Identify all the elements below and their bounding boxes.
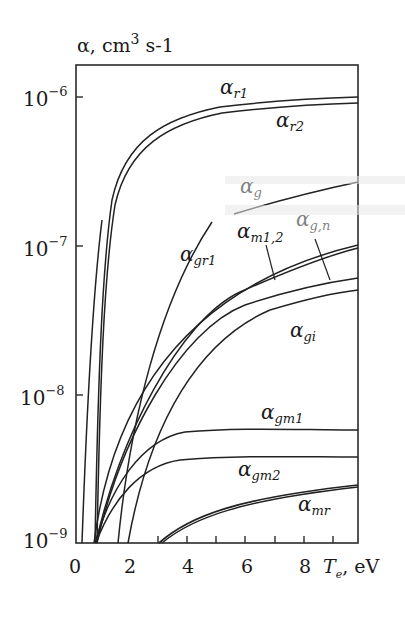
y-tick-1e-7: 10−7	[23, 234, 68, 261]
curve-r2	[97, 103, 358, 543]
y-tick-1e-6: 10−6	[23, 84, 68, 111]
label-m12: αm1,2	[237, 219, 284, 245]
x-axis-title: Te, eV	[323, 555, 380, 581]
curve-m12-upper	[94, 245, 358, 543]
curve-m12-lower	[96, 248, 358, 543]
x-tick-6: 6	[241, 555, 253, 577]
curve-gm2	[96, 457, 358, 543]
y-tick-1e-9: 10−9	[23, 526, 68, 553]
curve-gr1	[118, 222, 212, 543]
label-r2: αr2	[276, 108, 304, 134]
label-gm2: αgm2	[238, 457, 280, 483]
x-tick-4: 4	[182, 555, 194, 577]
label-mr: αmr	[298, 492, 331, 518]
y-tick-1e-8: 10−8	[20, 383, 65, 410]
y-axis: 10−6 10−7 10−8 10−9	[20, 84, 83, 553]
x-tick-0: 0	[69, 555, 81, 577]
curve-gm1	[95, 429, 358, 543]
curves	[82, 97, 358, 543]
label-gi: αgi	[290, 318, 316, 344]
label-r1: αr1	[220, 75, 248, 101]
x-tick-2: 2	[124, 555, 136, 577]
x-tick-8: 8	[299, 555, 311, 577]
curve-labels: αr1 αr2 αg αgr1 αm1,2 αg,n αgi αgm1 αgm2…	[180, 75, 331, 518]
label-gm1: αgm1	[261, 400, 303, 426]
rate-coefficient-chart: α, cm3 s-1 10−6 10−7 10−8 10−9 0 2 4 6 8…	[0, 0, 405, 622]
curve-r1	[95, 97, 358, 543]
y-axis-title: α, cm3 s-1	[77, 31, 174, 56]
scan-artifact	[225, 205, 405, 215]
